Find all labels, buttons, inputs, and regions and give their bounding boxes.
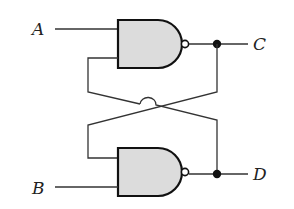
- top-nand-bubble: [181, 40, 188, 47]
- input-label-b: B: [31, 178, 45, 198]
- bottom-nand-bubble: [181, 168, 188, 175]
- output-label-d: D: [252, 164, 267, 184]
- nand-latch-diagram: A C B D: [0, 0, 294, 209]
- input-label-a: A: [30, 19, 44, 39]
- junction-dot-d: [213, 170, 221, 178]
- bottom-nand-gate: [118, 148, 189, 196]
- output-label-c: C: [253, 34, 266, 54]
- top-nand-gate: [118, 20, 189, 68]
